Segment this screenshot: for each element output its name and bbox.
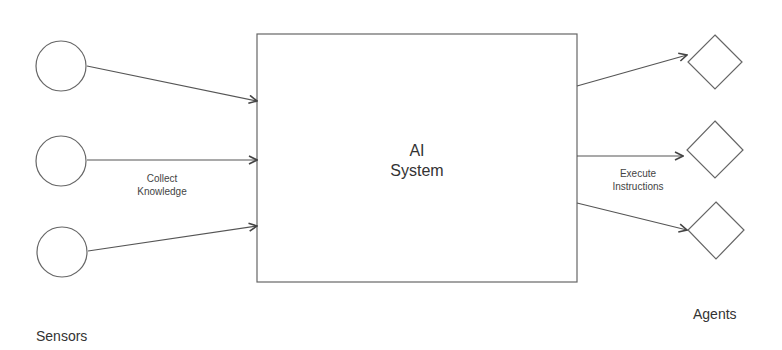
sensor-circle-1: [36, 41, 86, 91]
ai-system-label-line2: System: [387, 161, 447, 181]
output-arrow-3: [577, 203, 687, 230]
sensor-circle-3: [37, 227, 87, 277]
execute-instructions-line2: Instructions: [598, 180, 678, 193]
ai-system-label: AI System: [387, 141, 447, 181]
agent-diamond-3: [688, 202, 744, 259]
input-arrow-3: [88, 226, 257, 251]
sensors-label: Sensors: [36, 328, 87, 344]
output-arrow-1: [577, 55, 687, 86]
collect-knowledge-line2: Knowledge: [122, 185, 202, 198]
collect-knowledge-label: Collect Knowledge: [122, 172, 202, 198]
input-arrow-1: [87, 66, 257, 101]
execute-instructions-label: Execute Instructions: [598, 167, 678, 193]
collect-knowledge-line1: Collect: [122, 172, 202, 185]
ai-system-label-line1: AI: [387, 141, 447, 161]
agent-diamond-1: [688, 35, 742, 89]
agent-diamond-2: [687, 121, 743, 178]
agents-label: Agents: [693, 306, 737, 322]
sensor-circle-2: [36, 136, 86, 186]
execute-instructions-line1: Execute: [598, 167, 678, 180]
